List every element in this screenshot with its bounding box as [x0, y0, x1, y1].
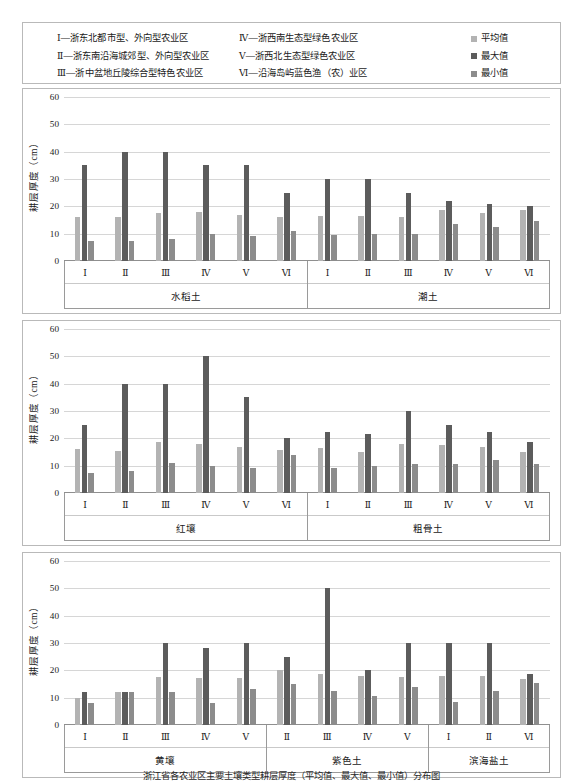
x-axis-category-label: Ⅲ: [388, 261, 428, 283]
soil-group-bars: [64, 561, 267, 725]
bar: [88, 473, 94, 493]
bar-cluster: [267, 329, 308, 493]
bar: [115, 451, 121, 493]
y-axis-tick-label: 20: [50, 665, 59, 675]
x-axis-category-label: Ⅳ: [428, 493, 468, 515]
bar-cluster: [429, 329, 470, 493]
x-axis-label-table: ⅠⅡⅢⅣⅤⅥ水稻土ⅠⅡⅢⅣⅤⅥ潮土: [64, 261, 550, 309]
bar: [75, 449, 81, 493]
x-axis-category-label: Ⅴ: [226, 261, 266, 283]
x-axis-category-label: Ⅲ: [146, 261, 186, 283]
bar: [446, 425, 452, 493]
bar: [527, 674, 533, 725]
bar: [534, 464, 540, 493]
x-axis-category-label: Ⅳ: [186, 493, 226, 515]
x-axis-label-table: ⅠⅡⅢⅣⅤⅥ红壤ⅠⅡⅢⅣⅤⅥ粗骨土: [64, 493, 550, 541]
bar: [318, 448, 324, 493]
legend-label: 最小值: [481, 65, 508, 83]
y-axis-tick-label: 30: [50, 174, 59, 184]
zone-legend-column-1: Ⅰ—浙东北都市型、外向型农业区 Ⅱ—浙东南沿海城郊型、外向型农业区 Ⅲ—浙中盆地…: [23, 27, 239, 83]
bar: [325, 432, 331, 494]
bar-cluster: [226, 97, 267, 261]
bar-cluster: [388, 561, 429, 725]
bar-cluster: [429, 97, 470, 261]
bar: [480, 676, 486, 725]
bar: [480, 447, 486, 493]
plot-area: [64, 561, 550, 725]
x-axis-soil-block: ⅠⅡⅢⅣⅤ黄壤: [64, 725, 267, 773]
bar-cluster: [64, 329, 105, 493]
bar: [487, 643, 493, 725]
soil-group-bars: [64, 329, 307, 493]
x-axis-category-label: Ⅰ: [308, 493, 348, 515]
x-axis-category-label: Ⅵ: [509, 261, 549, 283]
y-axis-tick-label: 40: [50, 611, 59, 621]
bar: [196, 212, 202, 261]
x-axis-category-label: Ⅱ: [348, 493, 388, 515]
y-axis-tick-label: 30: [50, 406, 59, 416]
bar-cluster: [469, 561, 510, 725]
y-axis-tick-label: 10: [50, 461, 59, 471]
bar: [453, 224, 459, 261]
bar: [331, 468, 337, 493]
bar-cluster: [429, 561, 470, 725]
plot-area: [64, 97, 550, 261]
bar: [129, 471, 135, 493]
bar: [527, 206, 533, 261]
y-axis-title: 耕层厚度（cm）: [26, 89, 40, 261]
x-axis-category-label: Ⅵ: [509, 725, 549, 747]
legend-item-average: 平均值: [471, 30, 560, 48]
bar: [82, 165, 88, 261]
x-axis-category-label: Ⅲ: [307, 725, 347, 747]
bar-cluster: [307, 329, 348, 493]
bar-cluster: [388, 97, 429, 261]
soil-group-bars: [429, 561, 551, 725]
bar-cluster: [105, 561, 146, 725]
bar: [493, 460, 499, 493]
bar: [446, 201, 452, 261]
bar: [284, 657, 290, 725]
bar: [156, 442, 162, 493]
bar: [122, 152, 128, 261]
bar: [520, 452, 526, 493]
bar: [169, 692, 175, 725]
bar-cluster: [267, 97, 308, 261]
bar-cluster: [145, 97, 186, 261]
bar: [399, 217, 405, 261]
figure-caption: 浙江省各农业区主要土壤类型耕层厚度（平均值、最大值、最小值）分布图: [0, 768, 583, 783]
x-axis-soil-block: ⅠⅡⅢⅣⅤⅥ红壤: [64, 493, 308, 541]
y-axis-tick-label: 40: [50, 379, 59, 389]
zone-legend-item: Ⅳ—浙西南生态型绿色农业区: [239, 30, 449, 48]
bar: [446, 643, 452, 725]
x-axis-category-label: Ⅱ: [469, 725, 509, 747]
bar: [156, 213, 162, 261]
x-axis-category-label: Ⅰ: [65, 493, 105, 515]
bar: [493, 691, 499, 725]
chart-panel-2: 耕层厚度（cm）0102030405060ⅠⅡⅢⅣⅤ黄壤ⅡⅢⅣⅤ紫色土ⅠⅡⅥ滨海…: [22, 552, 561, 778]
x-axis-soil-name: 红壤: [65, 515, 307, 540]
bar-cluster: [469, 329, 510, 493]
bar: [453, 702, 459, 725]
y-axis-tick-label: 0: [54, 720, 59, 730]
y-axis-tick-label: 40: [50, 147, 59, 157]
legend-swatch-icon: [471, 36, 477, 42]
y-axis-tick-label: 50: [50, 351, 59, 361]
bar: [277, 450, 283, 493]
bar: [237, 678, 243, 725]
legend-swatch-icon: [471, 71, 477, 77]
bar: [406, 193, 412, 261]
y-axis-tick-label: 20: [50, 433, 59, 443]
bar: [487, 204, 493, 261]
bar: [203, 648, 209, 725]
x-axis-category-label: Ⅴ: [387, 725, 427, 747]
x-axis-category-label: Ⅰ: [65, 261, 105, 283]
bar-cluster: [267, 561, 308, 725]
x-axis-category-label: Ⅲ: [146, 493, 186, 515]
zone-legend-column-2: Ⅳ—浙西南生态型绿色农业区 Ⅴ—浙西北生态型绿色农业区 Ⅵ—沿海岛屿蓝色渔（农）…: [239, 27, 449, 83]
bar-cluster: [105, 97, 146, 261]
bar: [534, 683, 540, 725]
bar: [453, 464, 459, 493]
zone-legend-item: Ⅴ—浙西北生态型绿色农业区: [239, 48, 449, 66]
bar: [439, 445, 445, 493]
x-axis-category-label: Ⅳ: [186, 725, 226, 747]
